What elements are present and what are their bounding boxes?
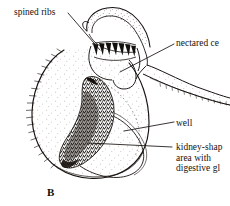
label-kidney-line-2: area with: [176, 153, 222, 164]
label-nectared-cells: nectared ce: [176, 38, 219, 49]
label-kidney-line-1: kidney-shap: [176, 142, 222, 153]
figure-panel-b: spined ribs nectared ce well kidney-shap…: [0, 0, 230, 206]
label-kidney-shaped-area: kidney-shap area with digestive gl: [176, 142, 222, 174]
line-drawing: [0, 0, 230, 206]
label-well: well: [176, 118, 192, 129]
label-kidney-line-3: digestive gl: [176, 163, 222, 174]
panel-letter: B: [47, 186, 54, 198]
label-spined-ribs: spined ribs: [14, 7, 55, 18]
nectar-tail-appendage: [143, 65, 230, 106]
